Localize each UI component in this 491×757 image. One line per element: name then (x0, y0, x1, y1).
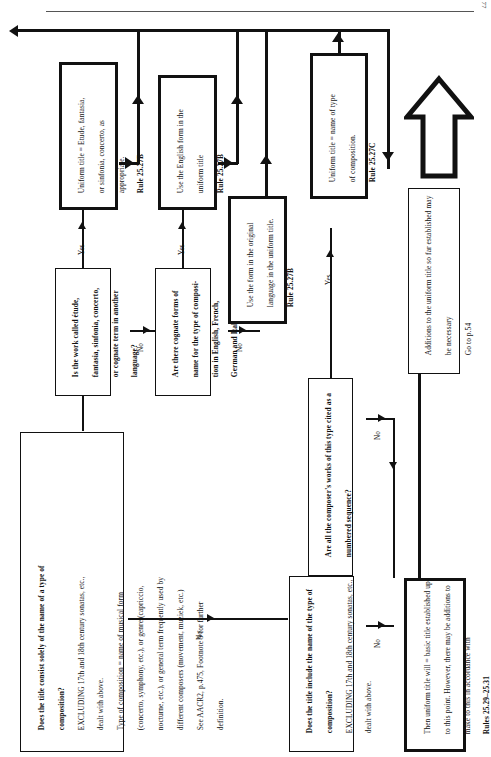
t8: different composers (movement, muziek, e… (176, 589, 185, 730)
t1: Are there cognate forms of (171, 290, 180, 377)
node-use-english-form[interactable]: Use the English form in the uniform titl… (158, 75, 217, 210)
t6: (concerto, symphony, etc.), or genre (ca… (136, 586, 145, 731)
page-number: 77 (480, 2, 488, 9)
t2: composition? (325, 690, 334, 733)
t4: language? (130, 344, 139, 377)
node-does-title-consist[interactable]: Does the title consist solely of the nam… (20, 432, 124, 752)
t1: Use the English form in the (176, 109, 185, 193)
node-use-original-language-text: Use the form in the original language in… (231, 189, 310, 321)
t3: Rule 25.27B (216, 154, 225, 193)
t2: composition? (57, 687, 66, 730)
t3: EXCLUDING 17th and 18th century sonatas,… (345, 579, 354, 733)
node-uniform-title-etude-text: Uniform title = Etude, fantasia, or sinf… (62, 55, 161, 207)
node-basic-title-established[interactable]: Then uniform title will = basic title es… (404, 578, 466, 752)
label-numbered-no: No (374, 431, 382, 440)
node-uniform-title-etude[interactable]: Uniform title = Etude, fantasia, or sinf… (59, 62, 118, 210)
t1: Uniform title = Etude, fantasia, (77, 98, 86, 194)
node-does-title-consist-text: Does the title consist solely of the nam… (21, 421, 241, 745)
node-additions-to-uniform-title-text: Additions to the uniform title so far es… (409, 179, 488, 369)
t2: numbered sequence? (344, 489, 353, 557)
arrow-original-up (260, 155, 272, 164)
label-called-yes: Yes (78, 245, 86, 255)
t1: Then uniform title will = basic title es… (423, 581, 432, 734)
label-numbered-yes: Yes (325, 275, 333, 285)
t3: Rule 25.27B (286, 268, 295, 307)
t3: tion in English, French, (211, 301, 220, 377)
t5: Type of composition = name of musical fo… (116, 592, 125, 730)
t2: to this point. However, there may be add… (443, 585, 452, 734)
t2: uniform title (196, 155, 205, 193)
arrow-numbered-yes (326, 250, 334, 257)
t4: dealt with above. (96, 678, 105, 730)
arrow-nametype-up (332, 33, 344, 42)
exit-block-arrow-icon (404, 75, 474, 180)
t1: Are all the composer's works of this typ… (324, 393, 333, 557)
t2: of composition. (348, 134, 357, 182)
t1: Does the title consist solely of the nam… (37, 565, 46, 730)
node-is-work-called[interactable]: Is the work called étude, fantasia, sinf… (55, 268, 111, 396)
node-is-work-called-text: Is the work called étude, fantasia, sinf… (56, 259, 155, 391)
t7: nocturne, etc.), or general term frequen… (156, 577, 165, 730)
node-does-title-include[interactable]: Does the title include the name of the t… (289, 576, 354, 752)
t1: Use the form in the original (246, 223, 255, 308)
t2: be necessary (444, 316, 453, 355)
t2: or sinfonia, concerto, as (97, 120, 106, 193)
line-numbered-no-drop (393, 418, 395, 578)
node-numbered-sequence-text: Are all the composer's works of this typ… (309, 369, 369, 571)
t4: Rule 25.27B (136, 154, 145, 193)
t2: fantasia, sinfonia, concerto, (91, 288, 100, 377)
t4: Rules 25.29–25.31 (482, 676, 491, 734)
page-top-rule (46, 11, 474, 12)
label-cognate-yes: Yes (178, 245, 186, 255)
arrow-called-yes (78, 222, 86, 229)
node-are-cognate-forms[interactable]: Are there cognate forms of name for the … (155, 268, 211, 396)
t3: Go to p.54 (464, 323, 473, 355)
node-does-title-include-text: Does the title include the name of the t… (290, 567, 389, 747)
arrow-numbered-no (378, 414, 385, 422)
spine-terminal-arrow (9, 25, 18, 37)
node-numbered-sequence[interactable]: Are all the composer's works of this typ… (308, 378, 353, 576)
t3: Rule 25.27C (368, 143, 377, 183)
node-additions-to-uniform-title[interactable]: Additions to the uniform title so far es… (408, 188, 460, 374)
t4: dealt with above. (364, 681, 373, 733)
t1: Is the work called étude, (71, 298, 80, 377)
node-uniform-title-name-of-type-text: Uniform title = name of type of composit… (313, 46, 392, 196)
arrow-cognate-yes (178, 222, 186, 229)
t2: name for the type of composi- (191, 281, 200, 378)
t3: or cognate term in another (111, 290, 120, 377)
t3: appropriate. (117, 157, 126, 194)
t2: language in the uniform title. (266, 218, 275, 307)
node-use-original-language[interactable]: Use the form in the original language in… (228, 196, 287, 324)
spine-main (18, 29, 390, 32)
node-use-english-form-text: Use the English form in the uniform titl… (161, 68, 240, 207)
t10: definition. (216, 699, 225, 731)
t3: EXCLUDING 17th and 18th century sonatas,… (77, 576, 86, 730)
node-uniform-title-name-of-type[interactable]: Uniform title = name of type of composit… (310, 53, 368, 199)
t1: Does the title include the name of the t… (305, 589, 314, 733)
t1: Additions to the uniform title so far es… (424, 196, 433, 356)
arrow-numbered-no-drop (389, 462, 397, 469)
t3: make to this in accordance with (463, 637, 472, 734)
node-basic-title-established-text: Then uniform title will = basic title es… (407, 569, 491, 749)
t1: Uniform title = name of type (328, 94, 337, 182)
t9: See AACR2, p.475, Footnote 9 for further (196, 602, 205, 731)
